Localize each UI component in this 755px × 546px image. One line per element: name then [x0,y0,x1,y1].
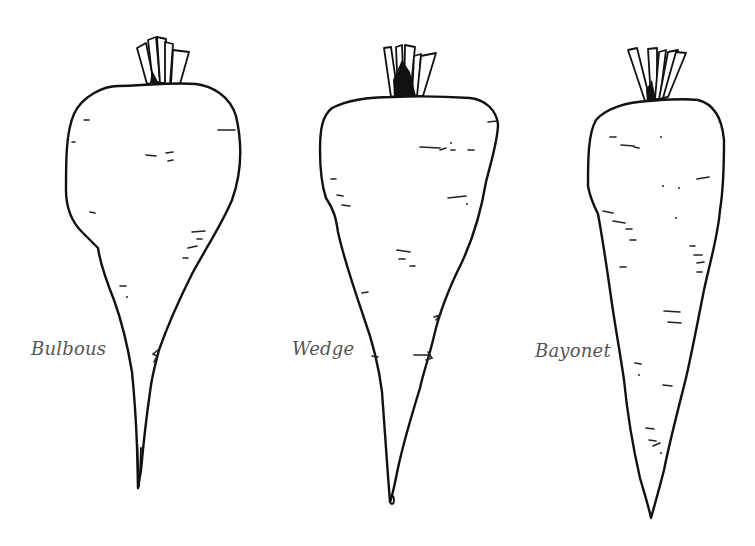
bulbous-label: Bulbous [31,338,106,359]
wedge-leaves-icon [384,45,436,97]
bayonet-leaves-icon [628,48,686,101]
bulbous-leaves-icon [137,37,189,84]
bulbous-root-drawing [66,37,240,488]
wedge-label: Wedge [292,338,354,359]
root-shapes-illustration: Bulbous Wedge Bayonet [0,0,755,546]
illustration-canvas [0,0,755,546]
wedge-root-drawing [320,45,498,504]
bayonet-label: Bayonet [535,340,611,361]
bayonet-root-drawing [588,48,724,518]
